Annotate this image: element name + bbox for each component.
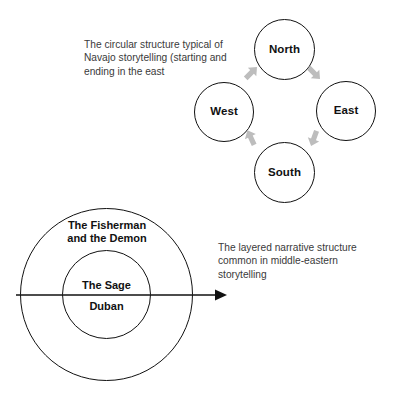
- arrow-right-icon: [16, 284, 228, 306]
- caption-circular-structure: The circular structure typical of Navajo…: [84, 38, 236, 78]
- node-label-west: West: [210, 105, 238, 118]
- arrow-down-left-icon: [303, 127, 325, 149]
- node-label-south: South: [268, 166, 301, 179]
- node-circle-south[interactable]: South: [254, 142, 315, 203]
- layered-narrative-diagram: The Fisherman and the Demon The Sage Dub…: [0, 205, 394, 402]
- caption-layered-narrative: The layered narrative structure common i…: [218, 241, 386, 281]
- outer-story-label: The Fisherman and the Demon: [38, 219, 176, 245]
- diagram-canvas: The circular structure typical of Navajo…: [0, 0, 394, 402]
- node-circle-east[interactable]: East: [316, 81, 376, 141]
- node-label-north: North: [269, 43, 300, 56]
- arrow-down-right-icon: [303, 62, 325, 84]
- arrow-up-right-icon: [240, 62, 262, 84]
- node-label-east: East: [334, 104, 359, 117]
- arrow-up-left-icon: [240, 127, 262, 149]
- circular-structure-diagram: The circular structure typical of Navajo…: [0, 0, 394, 205]
